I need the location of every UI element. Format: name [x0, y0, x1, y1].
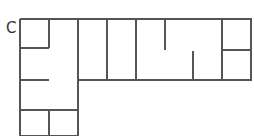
floor-plan [0, 0, 254, 136]
